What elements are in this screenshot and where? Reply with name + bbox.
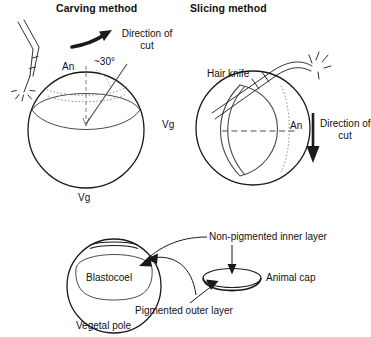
result-vegetal-pole-label: Vegetal pole [76, 320, 131, 331]
result-leader-nonpigmented-cap [228, 245, 237, 275]
carving-needle-sparkle-icon [12, 91, 36, 102]
result-embryo-cap-top [90, 242, 138, 249]
slicing-vegetal-pole-label: Vg [162, 119, 174, 130]
result-pigmented-label: Pigmented outer layer [135, 305, 233, 316]
slicing-direction-label-line2: cut [320, 130, 370, 141]
carving-panel-title: Carving method [56, 3, 137, 15]
carving-angle-label: ~30° [94, 56, 115, 67]
slicing-tool-label: Hair knife [207, 68, 249, 79]
slicing-knife-sparkle-icon [309, 52, 331, 79]
carving-direction-label-line1: Direction of [112, 28, 182, 39]
slicing-cap-lens [221, 85, 278, 176]
slicing-panel-title: Slicing method [190, 3, 267, 15]
result-blastocoel-label: Blastocoel [86, 272, 132, 283]
carving-vegetal-pole-label: Vg [78, 192, 90, 203]
carving-direction-label-line2: cut [112, 40, 182, 51]
slicing-direction-label-line1: Direction of [320, 118, 370, 129]
carving-angle-arc [96, 70, 110, 86]
slicing-dotted-cut-plane [281, 86, 289, 172]
slicing-direction-arrow-icon [307, 113, 320, 163]
carving-animal-pole-label: An [62, 61, 74, 72]
result-non-pigmented-label: Non-pigmented inner layer [209, 231, 327, 242]
result-leader-pigmented-embryo [146, 254, 196, 296]
carving-needle-icon [18, 20, 39, 92]
slicing-animal-pole-label: An [290, 120, 302, 131]
carving-direction-arrow-icon [72, 30, 112, 47]
result-leader-nonpigmented-embryo [139, 237, 207, 267]
result-embryo-outline [67, 239, 161, 333]
result-animal-cap-label: Animal cap [266, 272, 315, 283]
